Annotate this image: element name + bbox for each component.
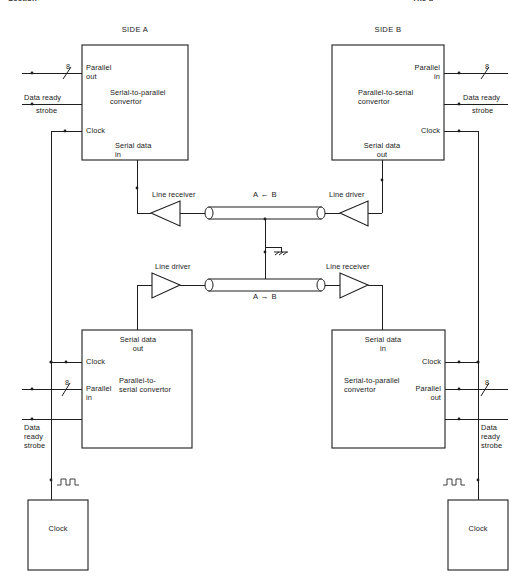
pin-label-parallel-out-a-2: out — [86, 72, 97, 81]
junction-dot — [31, 418, 34, 421]
data-ready-label-a-bottom-2: ready — [24, 432, 43, 441]
junction-dot — [64, 130, 67, 133]
side-b-label: SIDE B — [353, 25, 423, 34]
pin-label-parallel-in-b-2: in — [380, 72, 440, 81]
junction-dot — [50, 479, 53, 482]
junction-dot — [458, 418, 461, 421]
square-wave-icon-left — [57, 479, 79, 485]
data-ready-label-a-top: Data ready — [24, 93, 61, 102]
data-ready-label-a-bottom: Data — [24, 423, 40, 432]
junction-dot — [31, 103, 34, 106]
pin-label-clock-a: Clock — [86, 126, 105, 135]
coax-cable-lower-end-left — [205, 279, 213, 291]
pin-label-clock-b-bottom: Clock — [386, 357, 441, 366]
line-receiver-upper — [151, 201, 180, 226]
coax-cable-lower — [209, 279, 321, 291]
junction-dot — [381, 179, 384, 182]
junction-dot — [476, 360, 479, 363]
block-clock-right — [448, 500, 508, 570]
coax-cable-upper-end-left — [205, 207, 213, 219]
bus-width-label-b-bottom: 8 — [485, 378, 489, 387]
junction-dot — [264, 251, 267, 254]
line-driver-upper — [340, 201, 368, 226]
data-ready-label-b-top: Data ready — [463, 93, 500, 102]
pin-label-parallel-in-b: Parallel — [380, 63, 440, 72]
bus-width-label-a-top: 8 — [66, 62, 70, 71]
bus-width-label-b-top: 8 — [485, 62, 489, 71]
coax-cable-upper-end-right — [317, 207, 325, 219]
data-ready-label-a-top-2: strobe — [36, 106, 57, 115]
data-ready-label-b-bottom-2: ready — [481, 432, 500, 441]
direction-label-lower: A → B — [235, 292, 295, 301]
line-driver-lower-label: Line driver — [155, 262, 191, 271]
line-receiver-lower — [340, 273, 368, 298]
pin-label-parallel-out-a: Parallel — [86, 63, 111, 72]
square-wave-icon-right — [443, 479, 465, 485]
line-receiver-lower-label: Line receiver — [326, 262, 370, 271]
block-title-top-right-2: convertor — [358, 97, 390, 106]
junction-dot — [49, 360, 52, 363]
pin-label-parallel-out-b-bottom-2: out — [386, 393, 441, 402]
block-title-bottom-left: Parallel-to- — [119, 376, 156, 385]
pin-label-serial-out-b-2: out — [352, 150, 412, 159]
pin-label-serial-out-a-bottom-2: out — [105, 344, 171, 353]
side-a-label: SIDE A — [100, 25, 170, 34]
pin-label-serial-in-b-bottom-2: in — [350, 344, 416, 353]
junction-dot — [136, 187, 139, 190]
line-driver-upper-label: Line driver — [329, 190, 365, 199]
block-clock-left — [28, 500, 88, 570]
data-ready-label-b-bottom-3: strobe — [481, 441, 502, 450]
pin-label-parallel-in-a-bottom-2: in — [86, 393, 92, 402]
clock-box-right-label: Clock — [448, 524, 508, 533]
line-driver-lower — [152, 273, 180, 298]
data-ready-label-a-bottom-3: strobe — [24, 441, 45, 450]
junction-dot — [458, 361, 461, 364]
clock-box-left-label: Clock — [28, 524, 88, 533]
pin-label-serial-in-a-2: in — [115, 150, 121, 159]
line-receiver-upper-label: Line receiver — [152, 190, 196, 199]
pin-label-serial-in-b-bottom: Serial data — [350, 335, 416, 344]
data-ready-label-b-top-2: strobe — [472, 106, 493, 115]
block-title-top-left: Serial-to-parallel — [110, 88, 166, 97]
junction-dot — [458, 103, 461, 106]
junction-dot — [477, 479, 480, 482]
junction-dot — [31, 72, 34, 75]
junction-dot — [31, 388, 34, 391]
block-title-top-right: Parallel-to-serial — [358, 88, 413, 97]
coax-cable-upper — [209, 207, 321, 219]
block-title-bottom-right-2: convertor — [344, 385, 376, 394]
data-ready-label-b-bottom: Data — [481, 423, 497, 432]
direction-label-upper: A ← B — [235, 190, 295, 199]
pin-label-parallel-out-b-bottom: Parallel — [386, 384, 441, 393]
junction-dot — [458, 130, 461, 133]
pin-label-serial-out-b: Serial data — [352, 141, 412, 150]
pin-label-clock-b: Clock — [385, 126, 440, 135]
pin-label-clock-a-bottom: Clock — [86, 357, 105, 366]
diagram-page: Section The d — [0, 0, 529, 585]
junction-dot — [458, 72, 461, 75]
ground-icon — [274, 252, 288, 255]
junction-dot — [65, 361, 68, 364]
junction-dot — [458, 388, 461, 391]
pin-label-parallel-in-a-bottom: Parallel — [86, 384, 111, 393]
pin-label-serial-out-a-bottom: Serial data — [105, 335, 171, 344]
pin-label-serial-in-a: Serial data — [115, 141, 151, 150]
block-title-top-left-2: convertor — [110, 97, 142, 106]
coax-cable-lower-end-right — [317, 279, 325, 291]
block-title-bottom-left-2: serial convertor — [119, 385, 171, 394]
bus-width-label-a-bottom: 8 — [65, 378, 69, 387]
